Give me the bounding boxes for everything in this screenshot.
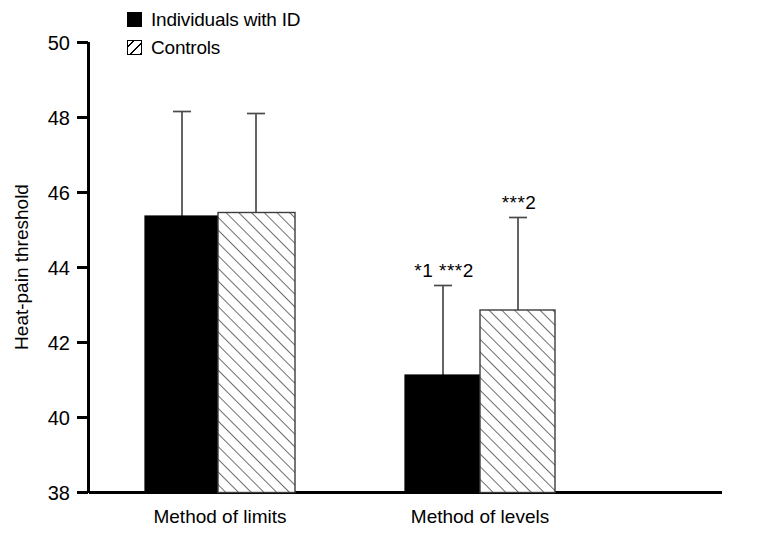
y-tick-label-38: 38	[48, 482, 70, 504]
error-bar-levels-controls	[509, 217, 527, 310]
y-tick-label-42: 42	[48, 332, 70, 354]
x-tick-label-method-of-levels: Method of levels	[411, 506, 549, 527]
y-axis-ticks	[77, 43, 88, 493]
bar-limits-controls	[218, 213, 295, 493]
bar-limits-individuals-with-id	[145, 216, 218, 493]
bar-levels-controls	[480, 310, 555, 493]
x-tick-label-method-of-limits: Method of limits	[153, 506, 286, 527]
error-bar-limits-controls	[247, 113, 265, 213]
y-tick-label-50: 50	[48, 32, 70, 54]
chart-figure: Individuals with ID Controls	[0, 0, 779, 540]
error-bar-limits-id	[173, 111, 191, 216]
y-tick-label-44: 44	[48, 257, 70, 279]
y-tick-label-48: 48	[48, 107, 70, 129]
y-tick-label-46: 46	[48, 182, 70, 204]
y-axis-title: Heat-pain threshold	[11, 184, 32, 350]
error-bar-levels-id	[434, 285, 452, 375]
chart-plot-area: 50 48 46 44 42 40 38 Heat-pain threshold	[0, 0, 779, 540]
bar-levels-individuals-with-id	[405, 375, 480, 493]
annotation-levels-individuals-with-id: *1 ***2	[414, 260, 474, 281]
y-tick-label-40: 40	[48, 407, 70, 429]
annotation-levels-controls: ***2	[502, 192, 537, 213]
